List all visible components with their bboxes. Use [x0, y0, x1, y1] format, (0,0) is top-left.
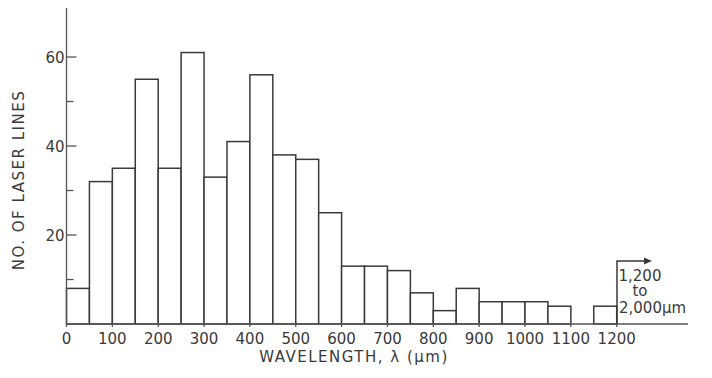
x-tick-label: 900 — [465, 330, 494, 348]
x-tick-label: 800 — [419, 330, 448, 348]
histogram-bar — [479, 302, 502, 324]
histogram-bar — [525, 302, 548, 324]
range-annotation: 1,200 to 2,000μm — [617, 258, 686, 325]
histogram-bar — [158, 168, 181, 324]
x-tick-label: 1200 — [598, 330, 636, 348]
histogram-bar — [387, 271, 410, 324]
y-axis-ticks: 204060 — [45, 49, 76, 280]
x-axis-ticks: 0100200300400500600700800900100011001200 — [62, 324, 636, 348]
x-tick-label: 600 — [327, 330, 356, 348]
histogram-bar — [410, 293, 433, 324]
histogram-bar — [433, 311, 456, 324]
histogram-bars — [67, 53, 617, 324]
histogram-bar — [319, 213, 342, 324]
histogram-bar — [548, 306, 571, 324]
x-tick-label: 300 — [190, 330, 219, 348]
histogram-bar — [273, 155, 296, 324]
x-axis-title: WAVELENGTH, λ (μm) — [259, 348, 449, 366]
histogram-bar — [250, 75, 273, 324]
histogram-bar — [204, 177, 227, 324]
histogram-bar — [594, 306, 617, 324]
histogram-chart: 0100200300400500600700800900100011001200… — [0, 0, 712, 378]
arrowhead-icon — [644, 258, 652, 265]
annotation-line-2: to — [632, 282, 647, 300]
histogram-bar — [456, 288, 479, 324]
histogram-bar — [89, 182, 112, 324]
y-axis-title: NO. OF LASER LINES — [10, 90, 28, 270]
histogram-bar — [365, 266, 388, 324]
x-tick-label: 0 — [62, 330, 72, 348]
histogram-bar — [181, 53, 204, 324]
x-tick-label: 100 — [98, 330, 127, 348]
x-tick-label: 500 — [281, 330, 310, 348]
histogram-bar — [227, 142, 250, 324]
histogram-bar — [342, 266, 365, 324]
y-tick-label: 40 — [45, 138, 64, 156]
annotation-line-3: 2,000μm — [619, 299, 686, 317]
histogram-bar — [67, 288, 90, 324]
histogram-bar — [135, 79, 158, 324]
x-tick-label: 400 — [236, 330, 265, 348]
y-tick-label: 60 — [45, 49, 64, 67]
histogram-bar — [112, 168, 135, 324]
histogram-bar — [502, 302, 525, 324]
histogram-bar — [296, 159, 319, 324]
x-tick-label: 1100 — [552, 330, 590, 348]
x-tick-label: 700 — [373, 330, 402, 348]
x-tick-label: 1000 — [506, 330, 544, 348]
y-tick-label: 20 — [45, 227, 64, 245]
x-tick-label: 200 — [144, 330, 173, 348]
chart-canvas: 0100200300400500600700800900100011001200… — [0, 0, 712, 378]
